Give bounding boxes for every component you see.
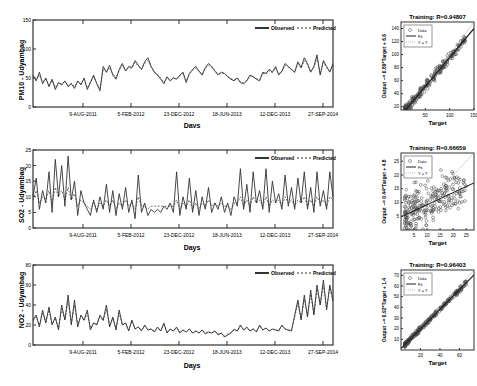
legend-data: Data bbox=[418, 28, 427, 33]
x-tick-label: 23-DEC-2012 bbox=[164, 111, 195, 117]
pm10-scatter-plot-area: Training: R=0.94807501001502040608010012… bbox=[381, 14, 477, 126]
x-tick-label: 12-DEC-2013 bbox=[260, 232, 291, 238]
legend-identity: Y = T bbox=[418, 40, 428, 45]
plot-frame bbox=[33, 265, 333, 345]
y-tick-label: 20 bbox=[25, 163, 31, 169]
y-tick-label: 50 bbox=[394, 294, 400, 299]
y-tick-label: 60 bbox=[394, 78, 400, 83]
x-tick-label: 27-SEP-2014 bbox=[308, 349, 338, 355]
plot-frame bbox=[33, 20, 333, 107]
x-tick-label: 23-DEC-2012 bbox=[164, 232, 195, 238]
x-tick-label: 18-JUN-2013 bbox=[212, 232, 242, 238]
scatter-ylabel: Output ~= 0.44*Target + 4.8 bbox=[381, 159, 387, 223]
y-tick-label: 50 bbox=[25, 75, 31, 81]
legend-data: Data bbox=[418, 276, 427, 281]
y-tick-label: 15 bbox=[25, 178, 31, 184]
y-tick-label: 100 bbox=[23, 46, 32, 52]
so2-scatter-plot-area: Training: R=0.66659510152025510152025Tar… bbox=[381, 145, 474, 246]
x-tick-label: 12-DEC-2013 bbox=[260, 349, 291, 355]
x-tick-label: 40 bbox=[437, 353, 443, 358]
x-tick-label: 100 bbox=[446, 113, 454, 118]
legend-observed-label: Observed bbox=[271, 270, 294, 276]
y-tick-label: 25 bbox=[25, 147, 31, 153]
scatter-title: Training: R=0.94807 bbox=[409, 14, 466, 20]
y-tick-label: 150 bbox=[23, 17, 32, 23]
legend-observed-label: Observed bbox=[271, 155, 294, 161]
scatter-legend: DataFitY = T bbox=[404, 156, 432, 178]
y-tick-label: 20 bbox=[394, 104, 400, 109]
legend-identity: Y = T bbox=[418, 288, 428, 293]
y-tick-label: 25 bbox=[394, 159, 400, 164]
y-tick-label: 0 bbox=[28, 104, 31, 110]
no2-scatter-plot-area: Training: R=0.9640320406010203040506070T… bbox=[381, 262, 474, 366]
y-tick-label: 20 bbox=[394, 173, 400, 178]
x-tick-label: 27-SEP-2014 bbox=[308, 232, 338, 238]
pm10-scatter-chart: Training: R=0.94807501001502040608010012… bbox=[360, 0, 477, 128]
y-tick-label: 60 bbox=[25, 282, 31, 288]
so2-plot-area: 05101520259-AUG-20115-FEB-201223-DEC-201… bbox=[25, 147, 338, 238]
scatter-xlabel: Target bbox=[429, 120, 447, 126]
scatter-title: Training: R=0.96403 bbox=[409, 262, 466, 268]
y-tick-label: 10 bbox=[394, 200, 400, 205]
scatter-legend: DataFitY = T bbox=[404, 25, 432, 47]
y-tick-label: 20 bbox=[394, 326, 400, 331]
so2-scatter-chart: Training: R=0.66659510152025510152025Tar… bbox=[360, 130, 477, 258]
y-tick-label: 0 bbox=[28, 342, 31, 348]
scatter-xlabel: Target bbox=[429, 240, 447, 246]
y-tick-label: 5 bbox=[396, 214, 399, 219]
legend-observed-label: Observed bbox=[271, 25, 294, 31]
no2-timeseries-chart: NO2 - Udyambag 0204060809-AUG-20115-FEB-… bbox=[0, 255, 360, 383]
y-tick-label: 20 bbox=[25, 322, 31, 328]
x-tick-label: 5-FEB-2012 bbox=[118, 232, 145, 238]
x-tick-label: 23-DEC-2012 bbox=[164, 349, 195, 355]
legend-predicted-label: Predicted bbox=[313, 155, 336, 161]
y-tick-label: 40 bbox=[394, 91, 400, 96]
x-tick-label: 18-JUN-2013 bbox=[212, 111, 242, 117]
x-tick-label: 9-AUG-2011 bbox=[69, 111, 97, 117]
y-tick-label: 15 bbox=[394, 186, 400, 191]
row-so2: SO2 - Udyambag 05101520259-AUG-20115-FEB… bbox=[0, 130, 477, 258]
scatter-legend: DataFitY = T bbox=[404, 273, 432, 295]
x-tick-label: 20 bbox=[418, 353, 424, 358]
y-tick-label: 40 bbox=[394, 305, 400, 310]
no2-scatter-chart: Training: R=0.9640320406010203040506070T… bbox=[360, 255, 477, 383]
scatter-xlabel: Target bbox=[429, 360, 447, 366]
y-tick-label: 140 bbox=[391, 26, 399, 31]
pm10-plot-area: 0501001509-AUG-20115-FEB-201223-DEC-2012… bbox=[23, 17, 339, 117]
no2-plot-area: 0204060809-AUG-20115-FEB-201223-DEC-2012… bbox=[25, 262, 338, 355]
scatter-title: Training: R=0.66659 bbox=[409, 145, 466, 151]
x-tick-label: 50 bbox=[423, 113, 429, 118]
so2-timeseries-chart: SO2 - Udyambag 05101520259-AUG-20115-FEB… bbox=[0, 130, 360, 258]
x-tick-label: 20 bbox=[451, 233, 457, 238]
x-tick-label: 5-FEB-2012 bbox=[118, 349, 145, 355]
x-tick-label: 5-FEB-2012 bbox=[118, 111, 145, 117]
y-tick-label: 120 bbox=[391, 39, 399, 44]
y-tick-label: 70 bbox=[394, 273, 400, 278]
y-tick-label: 30 bbox=[394, 316, 400, 321]
x-tick-label: 9-AUG-2011 bbox=[69, 349, 97, 355]
x-tick-label: 25 bbox=[464, 233, 470, 238]
x-tick-label: 9-AUG-2011 bbox=[69, 232, 97, 238]
y-tick-label: 10 bbox=[25, 194, 31, 200]
x-tick-label: 60 bbox=[457, 353, 463, 358]
legend-predicted-label: Predicted bbox=[313, 270, 336, 276]
pm10-xlabel: Days bbox=[184, 122, 201, 128]
y-tick-label: 40 bbox=[25, 302, 31, 308]
legend-identity: Y = T bbox=[418, 171, 428, 176]
plot-frame bbox=[33, 150, 333, 228]
x-tick-label: 15 bbox=[438, 233, 444, 238]
x-tick-label: 150 bbox=[470, 113, 477, 118]
y-tick-label: 80 bbox=[394, 65, 400, 70]
pm10-timeseries-chart: PM10 - Udyambag 0501001509-AUG-20115-FEB… bbox=[0, 0, 360, 128]
no2-ylabel: NO2 - Udyambag bbox=[18, 272, 26, 328]
y-tick-label: 100 bbox=[391, 52, 399, 57]
row-no2: NO2 - Udyambag 0204060809-AUG-20115-FEB-… bbox=[0, 255, 477, 383]
x-tick-label: 18-JUN-2013 bbox=[212, 349, 242, 355]
y-tick-label: 60 bbox=[394, 284, 400, 289]
y-tick-label: 80 bbox=[25, 262, 31, 268]
x-tick-label: 27-SEP-2014 bbox=[308, 111, 338, 117]
legend-predicted-label: Predicted bbox=[313, 25, 336, 31]
scatter-ylabel: Output ~= 0.92*Target + 1.4 bbox=[381, 278, 387, 342]
x-tick-label: 5 bbox=[413, 233, 416, 238]
x-tick-label: 10 bbox=[425, 233, 431, 238]
